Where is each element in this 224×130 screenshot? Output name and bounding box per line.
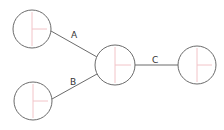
diagram-canvas: ABC (0, 0, 224, 130)
node-2 (14, 82, 52, 120)
node-3 (95, 45, 135, 85)
edge-label-b: B (70, 77, 76, 87)
edge-label-c: C (152, 55, 158, 65)
node-4 (178, 46, 216, 84)
node-1 (13, 10, 51, 48)
edge-label-a: A (71, 30, 78, 40)
